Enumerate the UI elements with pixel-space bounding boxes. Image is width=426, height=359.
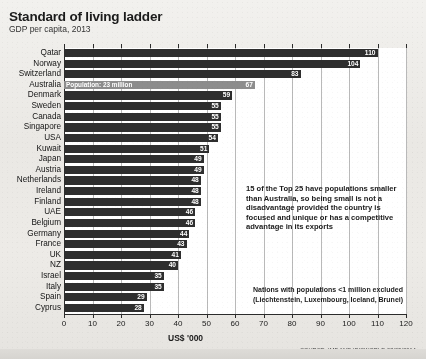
category-label-uk: UK [0,250,61,260]
tick-label-20: 20 [109,319,133,328]
category-label-sweden: Sweden [0,101,61,111]
bar-row: Switzerland83 [0,69,426,79]
bar-row: Norway104 [0,59,426,69]
bar-value-label: 83 [279,70,301,78]
bar-usa [64,134,218,142]
bar-value-label: 59 [210,91,232,99]
category-label-ireland: Ireland [0,186,61,196]
x-axis-label: US$ '000 [168,333,203,343]
chart-inner: Standard of living ladder GDP per capita… [0,0,426,359]
bar-value-label: 51 [187,145,209,153]
bar-value-label: 110 [356,49,378,57]
bar-value-label: 28 [122,304,144,312]
category-label-norway: Norway [0,59,61,69]
page-bottom-edge [0,349,426,359]
tick-label-80: 80 [280,319,304,328]
category-label-denmark: Denmark [0,90,61,100]
bar-value-label: 54 [196,134,218,142]
bar-value-label: 43 [165,240,187,248]
bar-row: UK41 [0,250,426,260]
tick-label-0: 0 [52,319,76,328]
tick-label-50: 50 [195,319,219,328]
category-label-france: France [0,239,61,249]
category-label-usa: USA [0,133,61,143]
bar-value-label: 46 [173,208,195,216]
bar-norway [64,60,360,68]
tick-label-10: 10 [81,319,105,328]
category-label-switzerland: Switzerland [0,69,61,79]
category-label-belgium: Belgium [0,218,61,228]
category-label-cyprus: Cyprus [0,303,61,313]
category-label-italy: Italy [0,282,61,292]
bar-row: Austria49 [0,165,426,175]
bar-value-label: 104 [338,60,360,68]
category-label-uae: UAE [0,207,61,217]
tick-label-40: 40 [166,319,190,328]
bar-row: Qatar110 [0,48,426,58]
bar-value-label: 35 [142,272,164,280]
bar-value-label: 29 [125,293,147,301]
exclusion-note-line1: Nations with populations <1 million excl… [240,285,416,294]
bar-row: Denmark59 [0,90,426,100]
bar-row: Australia67Population: 23 million [0,80,426,90]
category-label-canada: Canada [0,112,61,122]
bar-value-label: 55 [199,123,221,131]
bar-row: France43 [0,239,426,249]
bar-row: Canada55 [0,112,426,122]
bar-value-label: 49 [182,166,204,174]
chart-subtitle: GDP per capita, 2013 [9,24,91,34]
x-axis-line [64,314,407,315]
bar-value-label: 44 [167,230,189,238]
category-label-kuwait: Kuwait [0,144,61,154]
bar-sweden [64,102,221,110]
category-label-singapore: Singapore [0,122,61,132]
category-label-israel: Israel [0,271,61,281]
callout-text: 15 of the Top 25 have populations smalle… [246,184,406,232]
category-label-finland: Finland [0,197,61,207]
bar-value-label: 35 [142,283,164,291]
category-label-japan: Japan [0,154,61,164]
bar-row: Israel35 [0,271,426,281]
chart-page: Standard of living ladder GDP per capita… [0,0,426,359]
chart-title: Standard of living ladder [9,9,162,24]
bar-value-label: 48 [179,187,201,195]
bar-value-label: 40 [156,261,178,269]
bar-value-label: 41 [159,251,181,259]
tick-label-70: 70 [252,319,276,328]
category-label-netherlands: Netherlands [0,175,61,185]
bar-value-label: 46 [173,219,195,227]
bar-value-label: 49 [182,155,204,163]
tick-label-120: 120 [394,319,418,328]
bar-value-label: 48 [179,176,201,184]
bar-singapore [64,123,221,131]
bar-denmark [64,91,232,99]
category-label-australia: Australia [0,80,61,90]
category-label-qatar: Qatar [0,48,61,58]
bar-canada [64,113,221,121]
bar-row: USA54 [0,133,426,143]
bar-switzerland [64,70,301,78]
category-label-austria: Austria [0,165,61,175]
category-label-spain: Spain [0,292,61,302]
bar-row: Japan49 [0,154,426,164]
category-label-nz: NZ [0,260,61,270]
exclusion-note-line2: (Liechtenstein, Luxembourg, Iceland, Bru… [240,295,416,304]
bar-row: NZ40 [0,260,426,270]
tick-label-100: 100 [337,319,361,328]
tick-label-30: 30 [138,319,162,328]
bar-value-label: 55 [199,113,221,121]
category-label-germany: Germany [0,229,61,239]
bar-row: Singapore55 [0,122,426,132]
bar-row: Sweden55 [0,101,426,111]
bar-value-label: 55 [199,102,221,110]
australia-population-annotation: Population: 23 million [66,81,132,89]
tick-label-110: 110 [366,319,390,328]
tick-label-90: 90 [309,319,333,328]
bar-row: Kuwait51 [0,144,426,154]
bar-value-label: 67 [233,81,255,89]
bar-qatar [64,49,378,57]
tick-label-60: 60 [223,319,247,328]
bar-value-label: 48 [179,198,201,206]
